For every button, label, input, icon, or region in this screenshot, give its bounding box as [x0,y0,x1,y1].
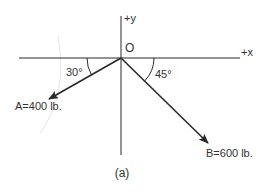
origin-label: O [125,41,134,55]
angle-arc-30 [87,58,92,75]
force-diagram: +y +x O 30° 45° A=400 lb. B=600 lb. (a) [0,0,271,193]
force-b-label: B=600 lb. [206,147,253,159]
scan-artifact-arc [40,36,61,133]
angle-b-label: 45° [155,68,172,80]
x-axis-label: +x [241,46,253,58]
angle-arc-45 [144,58,154,81]
force-a-label: A=400 lb. [15,100,62,112]
angle-a-label: 30° [66,66,83,78]
figure-caption: (a) [115,166,130,180]
y-axis-label: +y [124,12,136,24]
